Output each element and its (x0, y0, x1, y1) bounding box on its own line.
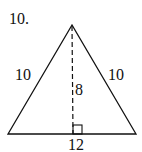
problem-number: 10. (9, 11, 29, 27)
base-label: 12 (68, 137, 84, 152)
height-label: 8 (75, 82, 83, 98)
right-angle-marker (73, 125, 82, 134)
right-side-label: 10 (108, 67, 124, 83)
left-side-label: 10 (15, 67, 31, 83)
height-dashed-line (72, 26, 73, 134)
